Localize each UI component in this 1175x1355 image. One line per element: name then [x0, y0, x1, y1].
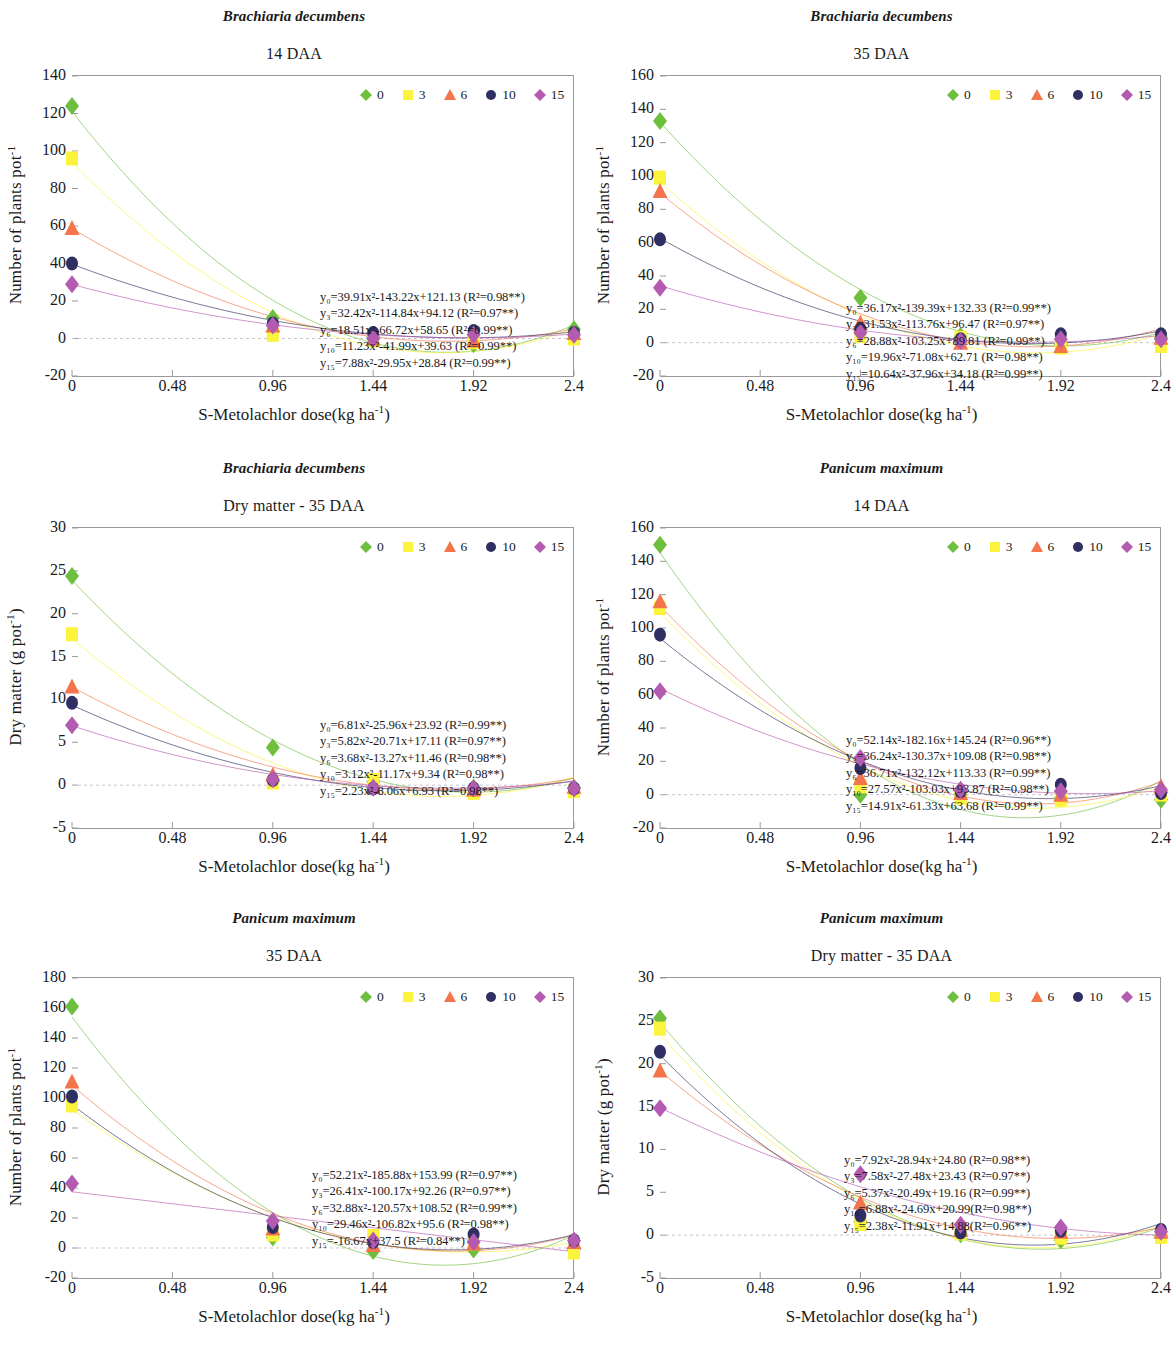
legend-item[interactable]: 3: [401, 989, 426, 1005]
regression-equations: y₀=7.92x²-28.94x+24.80 (R²=0.98**)y₃=7.5…: [844, 1152, 1031, 1234]
legend-item[interactable]: 0: [359, 989, 384, 1005]
legend-item[interactable]: 0: [359, 87, 384, 103]
y-tick-label: 100: [630, 166, 654, 184]
x-tick-label: 0.48: [746, 377, 774, 395]
x-tick-label: 1.92: [1047, 1279, 1075, 1297]
legend-item[interactable]: 0: [946, 989, 971, 1005]
x-tick-labels: 00.480.961.441.922.4: [72, 377, 574, 399]
y-axis-label: Dry matter (g pot-1): [592, 977, 616, 1277]
legend-item[interactable]: 6: [1030, 989, 1055, 1005]
chart-legend: 0361015: [946, 989, 1151, 1005]
equation-line: y₁₀=11.23x²-41.99x+39.63 (R²=0.99**): [320, 338, 525, 354]
equation-line: y₃=26.41x²-100.17x+92.26 (R²=0.97**): [312, 1183, 517, 1199]
legend-item[interactable]: 3: [401, 87, 426, 103]
y-tick-label: 160: [630, 518, 654, 536]
x-tick-label: 0: [656, 377, 664, 395]
legend-item[interactable]: 6: [443, 87, 468, 103]
legend-item[interactable]: 3: [401, 539, 426, 555]
legend-item[interactable]: 6: [1030, 539, 1055, 555]
legend-item[interactable]: 15: [533, 989, 565, 1005]
legend-marker-0: [946, 990, 960, 1004]
y-tick-label: 80: [638, 199, 654, 217]
y-tick-label: 140: [630, 551, 654, 569]
legend-label: 10: [1089, 87, 1103, 103]
panel-pm-14daa: Panicum maximum 14 DAA Number of plants …: [588, 452, 1175, 902]
y-tick-label: 60: [50, 1148, 66, 1166]
x-tick-label: 1.44: [359, 1279, 387, 1297]
legend-item[interactable]: 0: [946, 87, 971, 103]
y-tick-label: 15: [638, 1097, 654, 1115]
legend-item[interactable]: 10: [484, 539, 516, 555]
chart-legend: 0361015: [359, 989, 564, 1005]
legend-item[interactable]: 3: [988, 539, 1013, 555]
equation-line: y₆=28.88x²-103.25x+89.81 (R²=0.99**): [846, 333, 1051, 349]
y-tick-label: -20: [633, 366, 654, 384]
x-tick-label: 2.4: [564, 829, 584, 847]
legend-item[interactable]: 15: [533, 87, 565, 103]
legend-marker-3: [401, 540, 415, 554]
equation-line: y₀=36.17x²-139.39x+132.33 (R²=0.99**): [846, 300, 1051, 316]
legend-item[interactable]: 6: [443, 989, 468, 1005]
panel-bd-dm-35daa: Brachiaria decumbens Dry matter - 35 DAA…: [0, 452, 588, 902]
legend-marker-6: [443, 990, 457, 1004]
x-axis-label: S-Metolachlor dose(kg ha-1): [0, 857, 588, 877]
chart-legend: 0361015: [946, 87, 1151, 103]
x-tick-labels: 00.480.961.441.922.4: [72, 829, 574, 851]
x-tick-label: 0.96: [259, 829, 287, 847]
y-tick-label: 40: [638, 266, 654, 284]
legend-item[interactable]: 10: [1071, 989, 1103, 1005]
x-axis-label: S-Metolachlor dose(kg ha-1): [588, 405, 1175, 425]
legend-item[interactable]: 6: [1030, 87, 1055, 103]
y-tick-label: 100: [42, 1088, 66, 1106]
y-tick-label: 120: [42, 104, 66, 122]
legend-item[interactable]: 10: [1071, 87, 1103, 103]
y-tick-label: 0: [58, 775, 66, 793]
y-tick-label: 20: [638, 299, 654, 317]
legend-item[interactable]: 15: [1120, 989, 1152, 1005]
legend-marker-6: [1030, 990, 1044, 1004]
legend-item[interactable]: 15: [1120, 87, 1152, 103]
y-tick-label: 80: [638, 651, 654, 669]
panel-pm-dm-35daa: Panicum maximum Dry matter - 35 DAA Dry …: [588, 902, 1175, 1355]
y-tick-label: 20: [50, 604, 66, 622]
legend-item[interactable]: 10: [484, 989, 516, 1005]
y-tick-label: 0: [646, 333, 654, 351]
legend-marker-0: [946, 88, 960, 102]
y-tick-label: 120: [630, 585, 654, 603]
legend-marker-6: [1030, 540, 1044, 554]
legend-item[interactable]: 10: [1071, 539, 1103, 555]
legend-marker-3: [988, 990, 1002, 1004]
legend-item[interactable]: 15: [533, 539, 565, 555]
legend-item[interactable]: 10: [484, 87, 516, 103]
legend-marker-10: [1071, 540, 1085, 554]
y-tick-labels: -20020406080100120140160: [614, 75, 658, 375]
legend-item[interactable]: 6: [443, 539, 468, 555]
x-tick-label: 0: [656, 1279, 664, 1297]
equation-line: y₁₀=19.96x²-71.08x+62.71 (R²=0.98**): [846, 349, 1051, 365]
legend-item[interactable]: 3: [988, 87, 1013, 103]
equation-line: y₃=32.42x²-114.84x+94.12 (R²=0.97**): [320, 305, 525, 321]
y-tick-label: 140: [42, 1028, 66, 1046]
y-tick-label: 5: [646, 1182, 654, 1200]
regression-equations: y₀=36.17x²-139.39x+132.33 (R²=0.99**)y₃=…: [846, 300, 1051, 382]
legend-item[interactable]: 0: [359, 539, 384, 555]
y-tick-label: 40: [50, 254, 66, 272]
y-tick-label: 60: [638, 233, 654, 251]
x-axis-label: S-Metolachlor dose(kg ha-1): [0, 1307, 588, 1327]
legend-label: 15: [551, 539, 565, 555]
y-axis-label: Number of plants pot-1: [4, 977, 28, 1277]
legend-item[interactable]: 0: [946, 539, 971, 555]
data-point: [66, 152, 78, 166]
y-tick-label: 5: [58, 732, 66, 750]
legend-item[interactable]: 15: [1120, 539, 1152, 555]
equation-line: y₆=36.71x²-132.12x+113.33 (R²=0.99**): [846, 765, 1051, 781]
legend-label: 6: [461, 87, 468, 103]
legend-marker-15: [533, 990, 547, 1004]
legend-label: 10: [502, 989, 516, 1005]
y-tick-label: -5: [53, 818, 66, 836]
legend-marker-15: [1120, 540, 1134, 554]
legend-item[interactable]: 3: [988, 989, 1013, 1005]
x-tick-label: 0: [68, 377, 76, 395]
data-point: [654, 1045, 666, 1059]
y-tick-label: 30: [50, 518, 66, 536]
